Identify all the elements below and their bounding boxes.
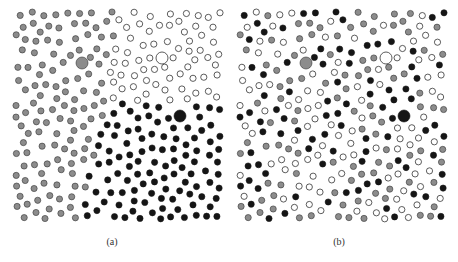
panel-a-segregated-particles: [12, 8, 224, 223]
panel-b-mixed-particles: [236, 8, 448, 223]
caption-a: (a): [92, 236, 132, 247]
caption-b: (b): [319, 236, 359, 247]
cropped-header-strip: [0, 0, 458, 4]
particle-plot-b: [236, 8, 448, 223]
particle-plot-a: [12, 8, 224, 223]
